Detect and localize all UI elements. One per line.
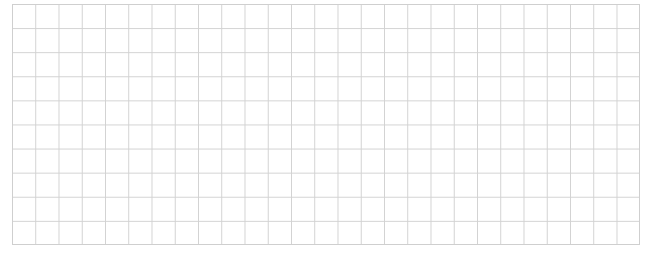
blank-grid bbox=[12, 4, 640, 245]
